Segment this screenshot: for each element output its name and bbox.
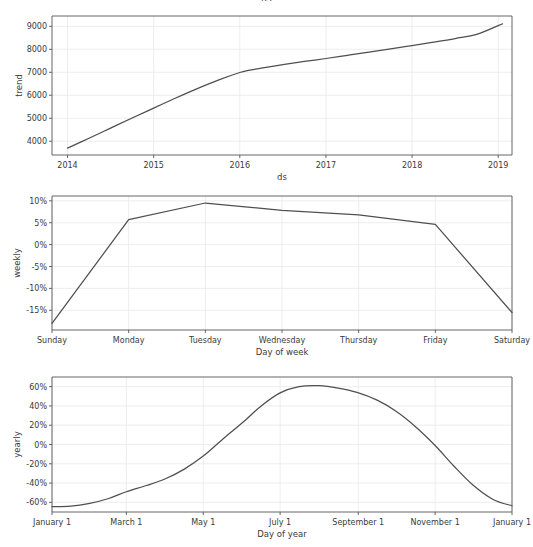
y-axis-ticks: 400050006000700080009000 [27,22,52,146]
y-tick-label: 60% [29,383,47,392]
y-axis-label: yearly [12,431,22,457]
x-tick-label: Monday [113,336,145,345]
x-tick-label: Saturday [494,336,530,345]
y-tick-label: 9000 [27,22,47,31]
x-tick-label: 2016 [230,161,250,170]
x-axis-label: Day of year [257,529,307,539]
x-tick-label: 2015 [143,161,163,170]
y-tick-label: -15% [26,306,47,315]
prophet-components-figure: ds 4000500060007000800090002014201520162… [0,0,533,547]
subplot-yearly: -60%-40%-20%0%20%40%60%January 1March 1M… [0,365,533,547]
y-tick-label: 8000 [27,45,47,54]
y-tick-label: 20% [29,421,47,430]
x-tick-label: May 1 [191,518,215,527]
y-tick-label: -5% [31,263,47,272]
x-tick-label: January 1 [492,518,531,527]
y-tick-label: -40% [26,479,47,488]
y-axis-label: weekly [12,248,22,278]
y-tick-label: -20% [26,460,47,469]
x-tick-label: Wednesday [259,336,306,345]
x-tick-label: 2014 [57,161,77,170]
x-tick-label: 2019 [488,161,508,170]
y-tick-label: 5% [34,219,47,228]
x-tick-label: September 1 [332,518,384,527]
x-tick-label: 2018 [402,161,422,170]
y-tick-label: 10% [29,197,47,206]
x-tick-label: January 1 [32,518,71,527]
x-axis-ticks: 201420152016201720182019 [57,155,508,170]
x-axis-ticks: January 1March 1May 1July 1September 1No… [32,512,531,527]
y-tick-label: 40% [29,402,47,411]
x-tick-label: Friday [423,336,448,345]
y-axis-label: trend [14,74,24,97]
y-axis-ticks: -60%-40%-20%0%20%40%60% [26,383,52,508]
y-axis-ticks: -15%-10%-5%0%5%10% [26,197,52,315]
x-axis-label: Day of week [256,347,309,357]
y-tick-label: 7000 [27,68,47,77]
y-tick-label: 6000 [27,91,47,100]
y-tick-label: 4000 [27,137,47,146]
x-tick-label: 2017 [316,161,336,170]
x-tick-label: Tuesday [188,336,222,345]
x-axis-ticks: SundayMondayTuesdayWednesdayThursdayFrid… [37,330,530,345]
x-tick-label: March 1 [110,518,142,527]
plot-background [52,16,512,155]
x-tick-label: July 1 [268,518,291,527]
x-tick-label: Sunday [37,336,67,345]
y-tick-label: 0% [34,441,47,450]
x-axis-label: ds [277,172,287,182]
x-tick-label: November 1 [410,518,459,527]
subplot-trend: 4000500060007000800090002014201520162017… [0,0,533,183]
x-tick-label: Thursday [339,336,377,345]
y-tick-label: 5000 [27,114,47,123]
y-tick-label: -10% [26,284,47,293]
subplot-weekly: -15%-10%-5%0%5%10%SundayMondayTuesdayWed… [0,183,533,365]
y-tick-label: 0% [34,241,47,250]
y-tick-label: -60% [26,498,47,507]
